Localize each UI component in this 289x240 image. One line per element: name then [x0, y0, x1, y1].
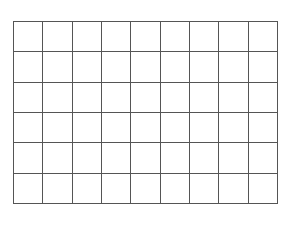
grid-cell [73, 143, 102, 173]
grid-cell [190, 83, 219, 113]
grid-cell [73, 52, 102, 82]
grid-cell [249, 174, 278, 204]
grid-cell [102, 83, 131, 113]
grid-cell [161, 52, 190, 82]
grid-cell [73, 174, 102, 204]
grid-cell [102, 143, 131, 173]
grid-cell [73, 22, 102, 52]
grid-cell [73, 83, 102, 113]
grid-cell [131, 52, 160, 82]
grid-cell [102, 113, 131, 143]
grid-cell [43, 83, 72, 113]
grid-cell [131, 143, 160, 173]
grid-cell [14, 143, 43, 173]
grid-cell [219, 174, 248, 204]
grid-cell [249, 52, 278, 82]
grid-cell [190, 174, 219, 204]
grid-cell [43, 143, 72, 173]
grid-cell [219, 113, 248, 143]
grid-cell [14, 83, 43, 113]
grid-cell [131, 113, 160, 143]
grid-cell [43, 22, 72, 52]
grid-cell [131, 83, 160, 113]
grid-cell [102, 174, 131, 204]
grid-cell [219, 143, 248, 173]
grid-cell [249, 143, 278, 173]
grid-cell [14, 113, 43, 143]
grid-cell [190, 113, 219, 143]
grid-cell [73, 113, 102, 143]
grid-cell [161, 174, 190, 204]
grid-cell [43, 52, 72, 82]
grid-cell [43, 174, 72, 204]
grid-cell [190, 143, 219, 173]
grid-cell [14, 22, 43, 52]
grid-cell [249, 22, 278, 52]
grid-cell [161, 143, 190, 173]
grid-cell [190, 52, 219, 82]
grid-cell [102, 22, 131, 52]
grid-cell [219, 83, 248, 113]
grid-cell [43, 113, 72, 143]
grid-cell [249, 113, 278, 143]
grid-cell [219, 52, 248, 82]
grid-cell [131, 174, 160, 204]
grid-cell [190, 22, 219, 52]
grid-cell [14, 52, 43, 82]
grid-cell [249, 83, 278, 113]
grid-cell [14, 174, 43, 204]
grid-cell [161, 113, 190, 143]
grid-cell [219, 22, 248, 52]
grid-cell [131, 22, 160, 52]
empty-grid [13, 21, 278, 204]
grid-cell [102, 52, 131, 82]
grid-cell [161, 83, 190, 113]
grid-cell [161, 22, 190, 52]
